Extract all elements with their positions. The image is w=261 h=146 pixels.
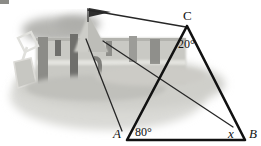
castle-tower-1 xyxy=(38,37,48,84)
geometry-figure: C A B x 20° 80° xyxy=(0,0,261,146)
sand-right-mound xyxy=(95,66,205,86)
vertex-label-b: B xyxy=(249,127,257,140)
figure-canvas xyxy=(0,0,261,146)
unknown-angle-label-x: x xyxy=(228,127,234,140)
angle-label-at-a: 80° xyxy=(135,126,152,138)
castle-wall-seam xyxy=(36,60,186,65)
angle-label-at-c: 20° xyxy=(178,38,195,50)
castle-tower-4 xyxy=(150,39,160,64)
vertex-label-c: C xyxy=(183,9,192,22)
sandcastle-photo xyxy=(0,0,261,146)
castle-merlon-1 xyxy=(55,40,61,56)
castle-tower-3 xyxy=(129,36,137,62)
corner-artifact xyxy=(0,0,9,4)
vertex-label-a: A xyxy=(113,127,121,140)
